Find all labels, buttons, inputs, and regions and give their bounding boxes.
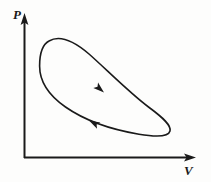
axes-group [21, 13, 196, 162]
cycle-loop-path [40, 39, 171, 136]
upper-branch-direction-arrow [93, 83, 106, 96]
volume-axis-label: V [184, 164, 193, 177]
cycle-loop-group [40, 39, 171, 136]
pressure-axis-label: P [13, 8, 21, 21]
cycle-direction-arrows [87, 83, 106, 129]
pv-diagram-canvas [0, 0, 211, 182]
lower-branch-direction-arrow [87, 117, 100, 129]
pv-diagram-figure: P V [0, 0, 211, 182]
